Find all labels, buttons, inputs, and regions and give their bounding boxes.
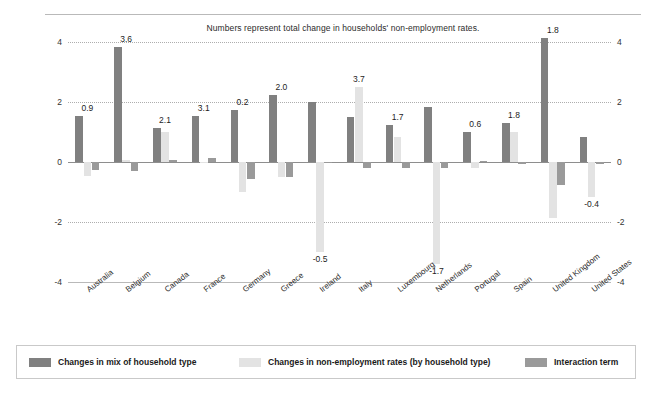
bar [541,38,549,163]
y-axis-tick-label: 0 [617,157,622,167]
bar [316,162,324,252]
bar [355,87,363,162]
bar [278,162,286,177]
bar-value-label: 1.8 [547,25,559,35]
bar [510,132,518,162]
bar [169,160,177,162]
bar [192,116,200,163]
bar [324,162,332,163]
bar-value-label: 3.1 [198,103,210,113]
gridline [68,222,611,223]
bar [247,162,255,179]
y-axis-tick-label: -2 [617,217,625,227]
legend-swatch-icon [525,358,547,367]
bar-group [580,42,604,282]
y-axis-tick-label: -2 [54,217,62,227]
zero-axis-line [68,162,611,163]
legend-label: Changes in non-employment rates (by hous… [268,357,490,367]
bar-value-label: 0.2 [237,97,249,107]
bar-value-label: 3.6 [120,34,132,44]
bar [433,162,441,264]
y-axis-tick-label: -4 [54,277,62,287]
bar [402,162,410,168]
legend-swatch-icon [239,358,261,367]
bar-value-label: 2.1 [159,115,171,125]
bar-value-label: 0.6 [469,119,481,129]
bar-group [114,42,138,282]
bar-group [424,42,448,282]
bar-value-label: 1.8 [508,110,520,120]
bar [286,162,294,177]
bar [480,161,488,162]
chart-legend: Changes in mix of household typeChanges … [16,345,636,379]
plot-inner: 442200-2-2-4-40.93.62.13.10.22.0-0.53.71… [68,42,611,282]
bar-group [231,42,255,282]
bar-group [308,42,332,282]
bar-value-label: 2.0 [275,82,287,92]
bar [114,47,122,163]
bar-value-label: -0.5 [313,254,328,264]
legend-label: Changes in mix of household type [58,357,196,367]
bar-group [269,42,293,282]
bar-value-label: 0.9 [81,103,93,113]
plot-area: 442200-2-2-4-40.93.62.13.10.22.0-0.53.71… [68,42,611,282]
bar [471,162,479,168]
bar [588,162,596,197]
bar [208,158,216,162]
bar-group [541,42,565,282]
gridline [68,42,611,43]
bar [441,162,449,168]
bar-value-label: 3.7 [353,74,365,84]
y-axis-tick-label: 2 [617,97,622,107]
bar [75,116,83,163]
legend-label: Interaction term [554,357,618,367]
bar [502,123,510,162]
bar-group [75,42,99,282]
bar [549,162,557,218]
chart-page: Numbers represent total change in househ… [0,0,655,396]
gridline [68,102,611,103]
bar [269,95,277,163]
bar [557,162,565,185]
bar-group [153,42,177,282]
bar-group [463,42,487,282]
bar-value-label: -0.4 [584,199,599,209]
bar [122,160,130,162]
bar [239,162,247,192]
bar [363,162,371,168]
bar [347,117,355,162]
bar [463,132,471,162]
y-axis-tick-label: 4 [617,37,622,47]
legend-swatch-icon [29,358,51,367]
legend-item[interactable]: Changes in mix of household type [29,357,196,367]
bar [131,162,139,171]
bar [92,162,100,170]
y-axis-tick-label: 4 [57,37,62,47]
bar [518,162,526,164]
bar [161,132,169,162]
bar [580,137,588,163]
bar [386,125,394,163]
y-axis-tick-label: 0 [57,157,62,167]
y-axis-tick-label: -4 [617,277,625,287]
legend-row: Changes in mix of household typeChanges … [17,346,635,378]
bar [424,107,432,163]
bar [308,102,316,162]
bar [200,162,208,163]
bar [84,162,92,176]
bar-group [502,42,526,282]
bar [394,137,402,163]
bar-group [192,42,216,282]
chart-panel: Numbers represent total change in househ… [45,14,641,335]
bar-value-label: 1.7 [392,112,404,122]
bar-group [386,42,410,282]
bar [153,128,161,163]
bar [596,162,604,164]
bar [231,110,239,163]
legend-item[interactable]: Interaction term [525,357,618,367]
y-axis-tick-label: 2 [57,97,62,107]
legend-item[interactable]: Changes in non-employment rates (by hous… [239,357,490,367]
